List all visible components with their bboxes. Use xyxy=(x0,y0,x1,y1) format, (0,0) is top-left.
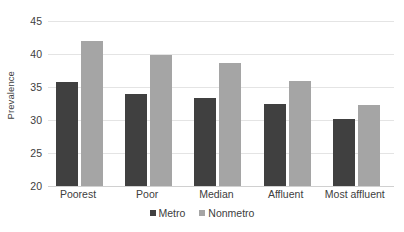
bar-metro-poorest[interactable] xyxy=(56,82,78,186)
y-axis-tick-label: 35 xyxy=(30,82,42,93)
y-axis-tick-label: 40 xyxy=(30,49,42,60)
plot-area: 202530354045 xyxy=(48,21,394,186)
x-axis-tick-label: Median xyxy=(199,188,233,201)
chart-legend: MetroNonmetro xyxy=(0,208,404,219)
bar-metro-poor[interactable] xyxy=(125,94,147,186)
gridline xyxy=(48,186,394,187)
legend-swatch-icon xyxy=(150,210,156,216)
bar-nonmetro-median[interactable] xyxy=(219,63,241,186)
x-axis-tick-label: Affluent xyxy=(268,188,303,201)
bar-nonmetro-affluent[interactable] xyxy=(289,81,311,186)
bar-group xyxy=(117,21,186,186)
bar-group xyxy=(48,21,117,186)
x-axis-tick-label: Poor xyxy=(136,188,158,201)
legend-swatch-icon xyxy=(199,210,205,216)
y-axis-title-label: Prevalence xyxy=(5,71,16,120)
bar-metro-median[interactable] xyxy=(194,98,216,186)
bar-group xyxy=(256,21,325,186)
legend-label: Nonmetro xyxy=(208,208,254,219)
bar-metro-most-affluent[interactable] xyxy=(333,119,355,186)
x-axis-category-labels: PoorestPoorMedianAffluentMost affluent xyxy=(48,188,394,206)
y-axis-tick-label: 45 xyxy=(30,16,42,27)
y-axis-title: Prevalence xyxy=(2,0,18,190)
bar-nonmetro-poorest[interactable] xyxy=(81,41,103,186)
y-axis-tick-label: 20 xyxy=(30,181,42,192)
legend-item-nonmetro[interactable]: Nonmetro xyxy=(199,208,254,219)
x-axis-tick-label: Most affluent xyxy=(325,188,385,201)
legend-item-metro[interactable]: Metro xyxy=(150,208,186,219)
x-axis-tick-label: Poorest xyxy=(60,188,96,201)
bars-layer xyxy=(48,21,394,186)
bar-group xyxy=(325,21,394,186)
bar-group xyxy=(186,21,255,186)
bar-chart: Prevalence 202530354045 PoorestPoorMedia… xyxy=(0,0,404,232)
bar-nonmetro-poor[interactable] xyxy=(150,55,172,186)
bar-metro-affluent[interactable] xyxy=(264,104,286,186)
y-axis-tick-label: 30 xyxy=(30,115,42,126)
y-axis-tick-label: 25 xyxy=(30,148,42,159)
legend-label: Metro xyxy=(159,208,186,219)
bar-nonmetro-most-affluent[interactable] xyxy=(358,105,380,186)
